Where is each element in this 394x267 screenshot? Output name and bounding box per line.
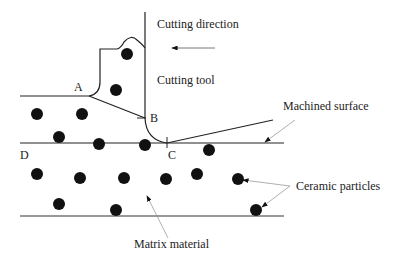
particle [203, 144, 215, 156]
particle [250, 204, 262, 216]
matrix-material-leader [147, 196, 168, 238]
machined-surface-leader [265, 120, 295, 142]
particle [53, 198, 65, 210]
point-label-b: B [150, 112, 158, 124]
particle [74, 172, 86, 184]
particle [232, 173, 244, 185]
ceramic-particles [31, 48, 262, 216]
particle [139, 139, 151, 151]
point-label-a: A [74, 81, 83, 93]
label-machined-surface: Machined surface [283, 100, 369, 112]
label-matrix-material: Matrix material [134, 238, 209, 250]
cutting-schematic-graphic [0, 0, 394, 267]
particle [31, 168, 43, 180]
particle [118, 172, 130, 184]
particle [76, 108, 88, 120]
particle [93, 138, 105, 150]
label-ceramic-particles: Ceramic particles [296, 180, 380, 192]
shear-plane-line [89, 96, 145, 118]
particle [110, 204, 122, 216]
ceramic-leader-2 [262, 186, 290, 207]
point-label-c: C [168, 149, 176, 161]
tool-clearance-face [167, 120, 273, 143]
ceramic-leader-1 [243, 180, 290, 186]
particle [31, 108, 43, 120]
label-cutting-tool: Cutting tool [157, 74, 215, 86]
particle [191, 168, 203, 180]
particle [53, 131, 65, 143]
particle [110, 84, 122, 96]
particle [160, 173, 172, 185]
diagram-canvas: Cutting direction Cutting tool Machined … [0, 0, 394, 267]
label-cutting-direction: Cutting direction [157, 18, 239, 30]
point-label-d: D [20, 149, 29, 161]
particle [121, 48, 133, 60]
